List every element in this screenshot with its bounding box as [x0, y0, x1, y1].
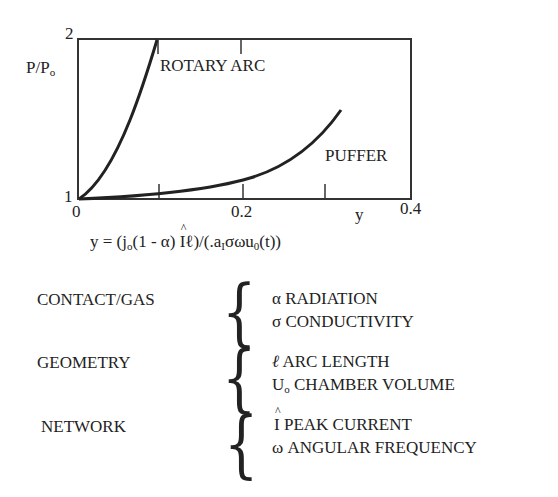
legend-item-chamber-volume: Uo CHAMBER VOLUME	[272, 375, 455, 395]
rotary-arc-curve	[79, 40, 157, 199]
legend-item-angular-frequency: ω ANGULAR FREQUENCY	[272, 438, 477, 458]
legend-text: ARC LENGTH	[282, 352, 389, 371]
sigma-symbol: σ	[272, 312, 281, 331]
pressure-ratio-chart	[0, 0, 558, 240]
u-subscript: o	[284, 383, 290, 395]
y-axis-label-main: P/P	[26, 58, 50, 77]
y-tick-2: 2	[65, 24, 74, 44]
legend-item-conductivity: σ CONDUCTIVITY	[272, 312, 414, 332]
legend-item-arc-length: ℓ ARC LENGTH	[272, 352, 390, 372]
category-geometry: GEOMETRY	[37, 353, 131, 373]
curve-label-puffer: PUFFER	[325, 146, 387, 166]
category-network: NETWORK	[41, 417, 126, 437]
category-contact-gas: CONTACT/GAS	[37, 290, 155, 310]
puffer-curve	[79, 110, 341, 199]
formula-part: (1 - α)	[132, 232, 179, 251]
formula-peak-current: I	[180, 232, 186, 252]
alpha-symbol: α	[272, 289, 281, 308]
legend-text: CONDUCTIVITY	[285, 312, 413, 331]
legend-text: PEAK CURRENT	[284, 415, 412, 434]
formula-part: σωu	[225, 232, 254, 251]
x-tick-0-4: 0.4	[400, 199, 421, 219]
legend-item-radiation: α RADIATION	[272, 289, 378, 309]
formula-part: y = (j	[90, 232, 127, 251]
ell-symbol: ℓ	[272, 352, 279, 371]
x-tick-0-2: 0.2	[231, 202, 252, 222]
formula-part: (t))	[259, 232, 281, 251]
legend-text: ANGULAR FREQUENCY	[287, 438, 476, 457]
u-symbol: U	[272, 375, 284, 394]
legend-text: RADIATION	[285, 289, 378, 308]
omega-symbol: ω	[272, 438, 283, 457]
x-tick-0: 0	[72, 202, 81, 222]
y-definition-formula: y = (jo(1 - α) Iℓ)/(.aIσωu0(t))	[90, 232, 281, 252]
legend-item-peak-current: I PEAK CURRENT	[274, 415, 412, 435]
brace-icon: {	[224, 408, 258, 480]
x-axis-label: y	[355, 205, 364, 225]
y-axis-label: P/Po	[26, 58, 55, 78]
formula-part: )/(.a	[193, 232, 221, 251]
peak-current-symbol: I	[274, 415, 280, 435]
legend-text: CHAMBER VOLUME	[294, 375, 455, 394]
y-axis-label-sub: o	[50, 66, 56, 78]
curve-label-rotary-arc: ROTARY ARC	[160, 56, 265, 76]
